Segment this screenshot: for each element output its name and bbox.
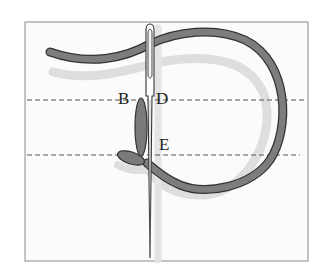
label-b: B (118, 89, 129, 108)
label-e: E (159, 135, 169, 154)
label-d: D (156, 89, 168, 108)
stitch-diagram: B D E (0, 0, 325, 276)
